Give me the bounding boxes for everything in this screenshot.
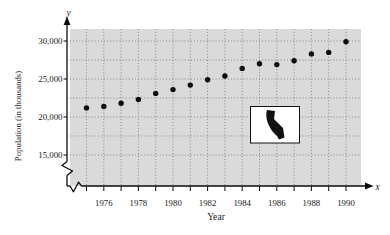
x-tick-label: 1976	[95, 198, 113, 208]
x-tick-label: 1978	[130, 198, 148, 208]
data-point	[101, 104, 106, 109]
data-point	[240, 66, 245, 71]
y-tick-label: 30,000	[38, 36, 63, 46]
data-point	[257, 61, 262, 66]
population-scatter-chart: 15,00020,00025,00030,0001976197819801982…	[0, 0, 390, 235]
data-point	[205, 77, 210, 82]
data-point	[136, 97, 141, 102]
x-axis-arrow-icon	[365, 183, 374, 190]
x-tick-label: 1986	[268, 198, 286, 208]
x-tick-label: 1990	[337, 198, 355, 208]
y-tick-label: 15,000	[38, 150, 63, 160]
data-point	[153, 91, 158, 96]
x-tick-label: 1982	[199, 198, 217, 208]
population-scatter-figure: 15,00020,00025,00030,0001976197819801982…	[0, 0, 390, 235]
y-tick-label: 20,000	[38, 112, 63, 122]
data-point	[188, 82, 193, 87]
x-tick-label: 1984	[233, 198, 251, 208]
data-point	[84, 105, 89, 110]
y-axis-title: Population (in thousands)	[13, 71, 23, 161]
x-axis-title: Year	[207, 211, 225, 222]
data-point	[343, 39, 348, 44]
y-axis-letter: y	[65, 8, 71, 18]
data-point	[291, 58, 296, 63]
x-axis-letter: x	[374, 182, 380, 192]
y-tick-label: 25,000	[38, 74, 63, 84]
data-point	[222, 73, 227, 78]
plot-area	[70, 29, 361, 186]
data-point	[170, 87, 175, 92]
x-tick-label: 1988	[303, 198, 321, 208]
data-point	[326, 50, 331, 55]
data-point	[274, 62, 279, 67]
data-point	[309, 51, 314, 56]
inset-california	[251, 107, 300, 144]
data-point	[118, 101, 123, 106]
x-tick-label: 1980	[164, 198, 182, 208]
